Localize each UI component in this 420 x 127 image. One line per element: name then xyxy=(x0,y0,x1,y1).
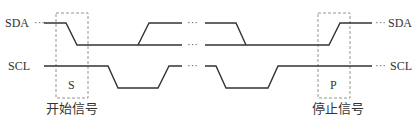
sda-left-continuation: ··· xyxy=(34,16,45,28)
scl-left-label: SCL xyxy=(8,59,30,73)
sda-left-label: SDA xyxy=(5,16,29,30)
sda-waveform xyxy=(44,23,372,45)
stop-marker: P xyxy=(330,78,337,92)
sda-right-label: SDA xyxy=(388,16,412,30)
sda-gap-upper: ··· xyxy=(187,16,198,28)
stop-caption: 停止信号 xyxy=(312,101,364,116)
sda-gap-lower: ··· xyxy=(187,38,198,50)
start-marker: S xyxy=(68,78,75,92)
scl-waveform xyxy=(44,66,372,88)
start-caption: 开始信号 xyxy=(46,101,98,116)
sda-right-continuation: ··· xyxy=(375,16,386,28)
scl-gap: ··· xyxy=(187,59,198,71)
scl-right-continuation: ··· xyxy=(375,59,386,71)
i2c-timing-diagram: SDA ··· SCL S 开始信号 P 停止信号 ··· ··· ··· ··… xyxy=(0,0,420,127)
scl-right-label: SCL xyxy=(390,59,412,73)
